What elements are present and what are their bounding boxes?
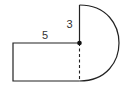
label-radius: 3 xyxy=(67,18,73,30)
label-rect-width: 5 xyxy=(42,29,48,41)
center-point xyxy=(77,41,82,46)
rectangle-outline xyxy=(13,43,80,81)
semicircle-arc xyxy=(80,5,120,81)
composite-figure-diagram: 5 3 xyxy=(0,0,124,87)
